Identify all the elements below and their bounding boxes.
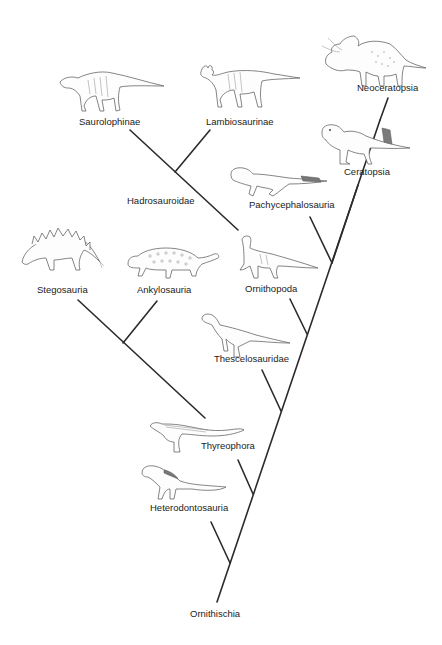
- iguanodont-illustration: [240, 236, 318, 278]
- label-lambiosaurinae: Lambiosaurinae: [206, 116, 274, 128]
- thescelosaur-illustration: [202, 314, 290, 357]
- label-ankylosauria: Ankylosauria: [137, 284, 191, 296]
- branch-saurolophinae: [130, 130, 238, 230]
- psittacosaurus-illustration: [322, 125, 410, 164]
- label-hadrosauroidae: Hadrosauroidae: [127, 195, 195, 207]
- label-ornithischia: Ornithischia: [190, 608, 240, 620]
- label-ornithopoda: Ornithopoda: [245, 283, 297, 295]
- branch-ornithopoda: [290, 299, 307, 334]
- cladogram: [0, 0, 442, 645]
- hadrosaur-illustration: [60, 72, 164, 111]
- branch-lambiosaurinae: [175, 130, 210, 172]
- label-pachycephalosauria: Pachycephalosauria: [249, 199, 335, 211]
- branch-stegosauria: [78, 300, 205, 418]
- crested-hadrosaur-illustration: [201, 66, 300, 107]
- label-thyreophora: Thyreophora: [201, 440, 255, 452]
- branch-ceratopsia: [332, 185, 358, 263]
- label-ceratopsia: Ceratopsia: [344, 166, 390, 178]
- branch-neoceratopsia: [380, 98, 388, 120]
- ankylosaur-illustration: [128, 248, 219, 278]
- label-heterodontosauria: Heterodontosauria: [150, 502, 228, 514]
- branch-thescelosauridae: [262, 370, 281, 411]
- triceratops-illustration: [322, 36, 426, 86]
- label-saurolophinae: Saurolophinae: [79, 116, 140, 128]
- branch-heterodontosauria: [211, 522, 230, 563]
- label-stegosauria: Stegosauria: [37, 284, 88, 296]
- branch-thyreophora: [238, 460, 253, 494]
- label-neoceratopsia: Neoceratopsia: [357, 82, 418, 94]
- branch-ankylosauria: [123, 301, 157, 343]
- heterodontosaur-illustration: [142, 466, 226, 499]
- pachycephalosaur-illustration: [231, 168, 327, 196]
- label-thescelosauridae: Thescelosauridae: [214, 353, 289, 365]
- stegosaur-illustration: [22, 228, 104, 270]
- branch-pachycephalosauria: [310, 217, 332, 263]
